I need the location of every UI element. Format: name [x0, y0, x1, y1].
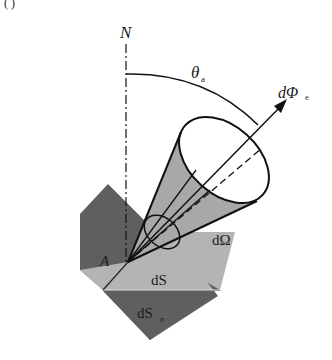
label-point: A	[99, 253, 110, 269]
label-projected-area-sub: n	[160, 315, 164, 324]
label-projected-area: dS	[137, 305, 153, 321]
dark-plane-lower-body	[103, 283, 221, 340]
radiometry-diagram: ( ) N θ a dΦ e dΩ A dS dS n	[0, 0, 332, 360]
label-angle-sub: a	[201, 74, 205, 84]
label-angle: θ	[191, 63, 199, 82]
top-fragment: ( )	[4, 0, 15, 10]
label-flux: dΦ	[278, 84, 298, 101]
label-flux-sub: e	[305, 93, 309, 102]
label-area: dS	[151, 272, 167, 288]
label-solid-angle: dΩ	[212, 232, 231, 248]
label-normal: N	[119, 23, 133, 42]
